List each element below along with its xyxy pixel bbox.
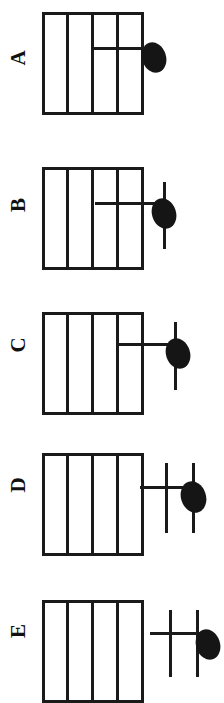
option-label-d: D [0,471,38,499]
staff-line-1 [42,453,45,556]
staff-line-4 [116,453,119,556]
option-label-e: E [0,617,38,645]
staff-e [42,600,144,703]
option-c[interactable]: C [0,280,224,420]
option-e[interactable]: E [0,556,224,696]
option-label-c: C [0,331,38,359]
notehead-b [148,195,180,232]
option-b[interactable]: B [0,140,224,280]
option-d[interactable]: D [0,420,224,560]
staff-line-4 [116,12,119,115]
staff-line-4 [116,167,119,270]
staff-d [42,453,144,556]
staff-line-1 [42,12,45,115]
staff-line-3 [91,167,94,270]
staff-line-4 [116,600,119,703]
staff-line-2 [66,167,69,270]
option-label-b: B [0,191,38,219]
ledger-stroke-d-1 [165,463,168,533]
staff-a [42,12,144,115]
staff-line-3 [91,453,94,556]
staff-line-2 [66,600,69,703]
staff-line-3 [91,600,94,703]
notehead-d [177,478,211,516]
staff-line-5 [141,600,144,703]
staff-line-5 [141,312,144,415]
option-label-a: A [0,44,38,72]
staff-b [42,167,144,270]
option-a[interactable]: A [0,0,224,140]
staff-line-1 [42,312,45,415]
staff-line-5 [141,453,144,556]
staff-line-5 [141,167,144,270]
staff-line-2 [66,12,69,115]
staff-c [42,312,144,415]
ledger-stroke-e-1 [169,610,172,677]
staff-line-3 [91,312,94,415]
staff-line-4 [116,312,119,415]
staff-line-2 [66,312,69,415]
staff-line-1 [42,600,45,703]
staff-line-1 [42,167,45,270]
staff-line-3 [91,12,94,115]
notehead-c [162,335,194,372]
staff-line-2 [66,453,69,556]
